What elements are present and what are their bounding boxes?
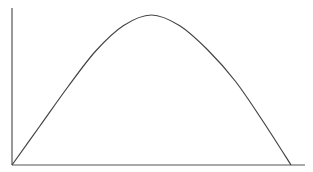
data-curve: [12, 15, 291, 165]
chart-container: [0, 0, 313, 172]
line-chart: [0, 0, 313, 172]
